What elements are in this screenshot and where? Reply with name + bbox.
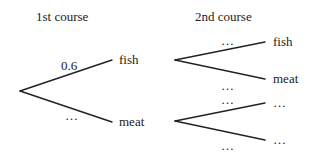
heading-first-course: 1st course xyxy=(36,9,89,24)
outcome-first-meat: meat xyxy=(119,114,145,129)
prob-meat-first: … xyxy=(221,92,234,107)
outcome-meat-first: … xyxy=(273,95,286,110)
outcome-meat-second: … xyxy=(273,132,286,147)
probability-tree-diagram: 1st course 2nd course 0.6 … fish meat … … xyxy=(0,0,315,158)
prob-meat-second: … xyxy=(221,138,234,153)
outcome-first-fish: fish xyxy=(119,52,139,67)
prob-first-meat: … xyxy=(65,108,78,123)
branch-meat-first xyxy=(175,103,265,121)
outcome-fish-meat: meat xyxy=(273,71,299,86)
branch-meat-second xyxy=(175,121,265,140)
outcome-fish-fish: fish xyxy=(273,34,293,49)
prob-fish-fish: … xyxy=(221,33,234,48)
prob-fish-meat: … xyxy=(221,78,234,93)
heading-second-course: 2nd course xyxy=(195,9,252,24)
prob-first-fish: 0.6 xyxy=(61,58,78,73)
branch-fish-fish xyxy=(175,42,265,60)
branch-fish-meat xyxy=(175,60,265,79)
